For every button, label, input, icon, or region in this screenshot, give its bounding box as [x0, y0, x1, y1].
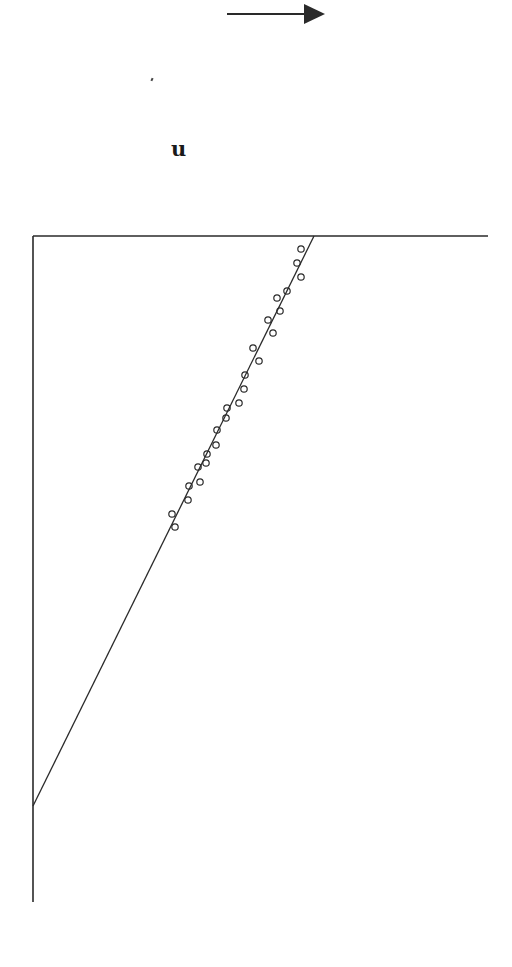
data-point	[298, 246, 304, 252]
data-point	[298, 274, 304, 280]
data-point	[169, 511, 175, 517]
data-point	[197, 479, 203, 485]
data-point	[250, 345, 256, 351]
plot-frame	[33, 236, 488, 902]
fit-line	[33, 236, 314, 806]
data-point	[236, 400, 242, 406]
data-point	[270, 330, 276, 336]
right-arrow-icon	[227, 4, 325, 24]
data-point	[203, 460, 209, 466]
data-point	[277, 308, 283, 314]
velocity-label: u	[171, 138, 186, 159]
data-point	[213, 442, 219, 448]
diagram-canvas	[0, 0, 512, 967]
data-point	[274, 295, 280, 301]
data-point	[172, 524, 178, 530]
data-point	[294, 260, 300, 266]
data-point	[256, 358, 262, 364]
data-point	[265, 317, 271, 323]
data-point	[185, 497, 191, 503]
data-point	[241, 386, 247, 392]
data-points	[169, 246, 304, 530]
